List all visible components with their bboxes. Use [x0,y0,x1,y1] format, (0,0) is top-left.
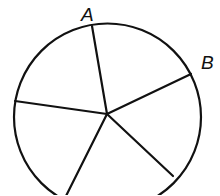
radius-bottom-right [107,114,173,176]
radius-a [92,26,107,114]
circle-diagram: A B [0,0,220,195]
label-a: A [80,4,94,25]
radius-b [107,74,191,114]
label-b: B [201,52,214,73]
radius-bottom-left [66,114,107,195]
outer-circle [14,24,201,196]
radius-left [15,101,107,114]
